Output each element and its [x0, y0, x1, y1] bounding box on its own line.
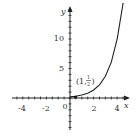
x-axis-arrow-icon	[124, 96, 130, 101]
chart: -4 -2 0 2 4 5 10 x y (1, 1 2 )	[0, 0, 140, 136]
marked-point	[74, 95, 77, 98]
y-tick-label: 10	[54, 34, 64, 43]
point-annotation: (1, 1 2 )	[76, 74, 95, 87]
x-tick-label: 2	[91, 104, 96, 113]
svg-text:1: 1	[87, 74, 90, 80]
x-axis-label: x	[124, 101, 129, 110]
x-tick-label: 0	[62, 102, 67, 111]
y-axis-label: y	[60, 7, 66, 16]
svg-text:): )	[92, 77, 95, 86]
y-axis-arrow-icon	[68, 6, 73, 12]
y-ticks	[69, 10, 72, 128]
svg-text:2: 2	[87, 81, 90, 87]
svg-text:(1,: (1,	[76, 77, 87, 86]
y-tick-label: 5	[59, 64, 64, 73]
x-tick-label: -4	[18, 104, 26, 113]
x-tick-label: 4	[114, 104, 119, 113]
x-tick-label: -2	[42, 104, 50, 113]
